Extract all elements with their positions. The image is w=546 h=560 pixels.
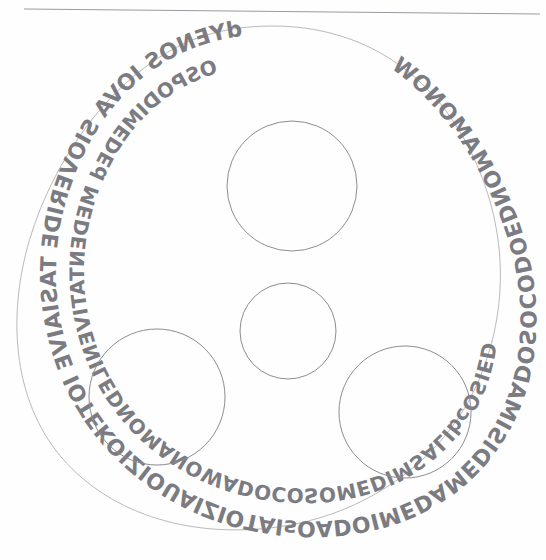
circle-top — [227, 121, 357, 251]
outer-ring-lettering: dYENOS IOVA SIOVERIDE TASIAIVE IOTEKOIZI… — [36, 16, 541, 542]
inner-ring-lettering: OSPODIMEDEd MEDENTATIVENILEDNOMANOWADOCO… — [65, 55, 501, 508]
sketch-drawing: dYENOS IOVA SIOVERIDE TASIAIVE IOTEKOIZI… — [0, 0, 546, 560]
sketch-canvas: dYENOS IOVA SIOVERIDE TASIAIVE IOTEKOIZI… — [0, 0, 546, 560]
circle-center-small — [240, 283, 336, 379]
horizontal-rule — [24, 9, 540, 14]
